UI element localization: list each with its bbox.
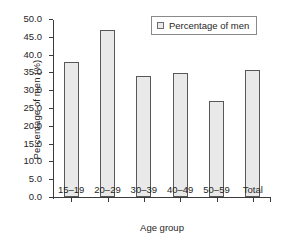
bar — [173, 73, 188, 197]
y-axis-tick-label: 50.0 — [24, 13, 43, 24]
bar — [136, 76, 151, 197]
y-axis-tick-label: 40.0 — [24, 49, 43, 60]
x-axis-tick — [108, 198, 109, 202]
y-axis-tick-label: 25.0 — [24, 102, 43, 113]
y-axis-tick: 15.0 — [49, 144, 53, 145]
y-axis-tick: 20.0 — [49, 126, 53, 127]
legend-swatch-icon — [157, 22, 164, 29]
y-axis-tick-label: 35.0 — [24, 66, 43, 77]
y-axis-tick: 0.0 — [49, 197, 53, 198]
y-axis-tick-label: 0.0 — [29, 191, 42, 202]
y-axis-tick: 50.0 — [49, 19, 53, 20]
x-axis-category-label: 40–49 — [167, 184, 193, 195]
y-axis-line — [53, 20, 54, 199]
x-axis-tick — [180, 198, 181, 202]
bar — [209, 101, 224, 197]
y-axis-tick-label: 10.0 — [24, 155, 43, 166]
y-axis-tick: 5.0 — [49, 179, 53, 180]
x-axis-category-label: 50–59 — [203, 184, 229, 195]
y-axis-tick: 10.0 — [49, 161, 53, 162]
bar — [64, 62, 79, 197]
y-axis-tick: 25.0 — [49, 108, 53, 109]
bar — [100, 30, 115, 197]
x-axis-tick — [253, 198, 254, 202]
legend: Percentage of men — [151, 16, 257, 35]
y-axis-tick: 45.0 — [49, 37, 53, 38]
x-axis-category-label: Total — [243, 184, 263, 195]
x-axis-line — [53, 197, 271, 198]
y-axis-tick-label: 15.0 — [24, 138, 43, 149]
x-axis-category-label: 30–39 — [131, 184, 157, 195]
x-axis-category-label: 15–19 — [58, 184, 84, 195]
x-axis-tick — [144, 198, 145, 202]
y-axis-tick-label: 5.0 — [29, 173, 42, 184]
x-axis-tick-end — [270, 198, 271, 202]
x-axis-tick — [217, 198, 218, 202]
y-axis-tick-label: 20.0 — [24, 120, 43, 131]
x-axis-title: Age group — [53, 222, 271, 233]
y-axis-tick: 30.0 — [49, 90, 53, 91]
bar-chart: Percentage of men (%) 0.05.010.015.020.0… — [0, 0, 285, 244]
y-axis-tick: 35.0 — [49, 72, 53, 73]
x-axis-category-label: 20–29 — [94, 184, 120, 195]
bar — [245, 70, 260, 197]
x-axis-tick — [71, 198, 72, 202]
y-axis-tick-label: 30.0 — [24, 84, 43, 95]
y-axis-tick-label: 45.0 — [24, 31, 43, 42]
legend-label: Percentage of men — [169, 20, 249, 31]
plot-area: 0.05.010.015.020.025.030.035.040.045.050… — [53, 20, 271, 198]
y-axis-tick: 40.0 — [49, 55, 53, 56]
